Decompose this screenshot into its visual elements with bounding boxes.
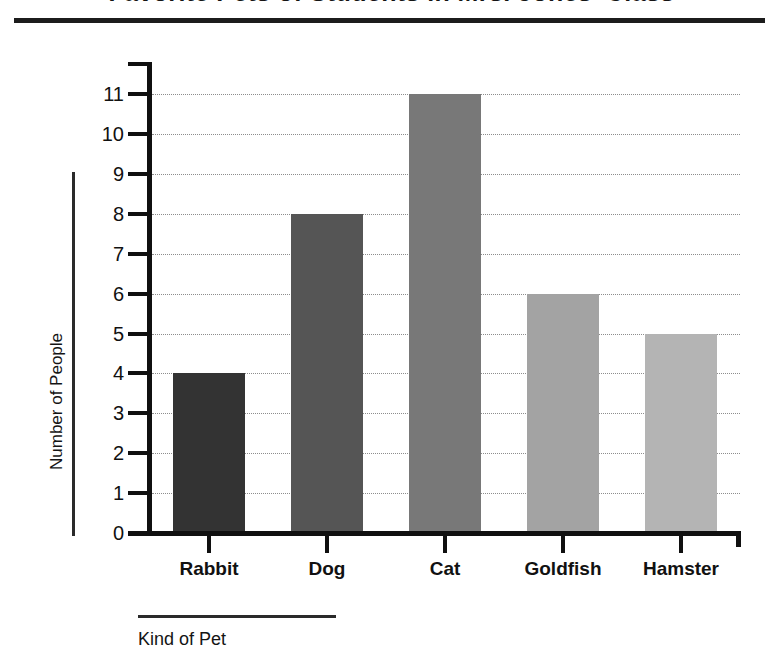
y-axis-tick-label: 4: [84, 363, 124, 383]
x-axis-tick: [561, 536, 565, 553]
y-axis-tick-label: 1: [84, 483, 124, 503]
y-axis-line: [147, 62, 152, 536]
y-axis-label-rule: [72, 172, 75, 536]
x-axis-end-tick: [736, 531, 741, 547]
bar-rabbit: [173, 373, 245, 533]
x-axis-line: [128, 531, 741, 536]
chart-page: Favorite Pets of Students in Mrs. Jones'…: [0, 0, 783, 670]
y-axis-tick-label: 5: [84, 324, 124, 344]
y-axis-tick-label: 7: [84, 244, 124, 264]
x-axis-tick: [207, 536, 211, 553]
bar-cat: [409, 94, 481, 533]
x-axis-tick: [325, 536, 329, 553]
y-axis-tick-label: 0: [84, 523, 124, 543]
y-axis-tick-label: 10: [84, 124, 124, 144]
x-axis-tick-label: Hamster: [606, 558, 756, 580]
y-axis-label: Number of People: [48, 333, 65, 470]
x-axis-tick: [679, 536, 683, 553]
y-axis-tick-label: 3: [84, 403, 124, 423]
bar-dog: [291, 214, 363, 533]
y-axis-tick-label: 2: [84, 443, 124, 463]
y-axis-tick-label: 9: [84, 164, 124, 184]
y-axis-tick-label: 6: [84, 284, 124, 304]
x-axis-label: Kind of Pet: [138, 628, 226, 650]
y-axis-tick-label: 11: [84, 84, 124, 104]
y-axis-tick-label: 8: [84, 204, 124, 224]
x-axis-tick: [443, 536, 447, 553]
bar-goldfish: [527, 294, 599, 533]
plot-area: 01234567891011 RabbitDogCatGoldfishHamst…: [0, 0, 783, 670]
bar-hamster: [645, 334, 717, 534]
x-axis-label-rule: [138, 615, 336, 618]
